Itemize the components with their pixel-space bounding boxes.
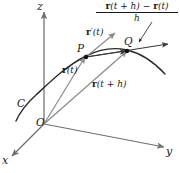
diagram-canvas: [0, 0, 180, 173]
vector-derivative-diagram: z y x O P Q C r(t) r(t + h) r′(t) r(t + …: [0, 0, 180, 173]
point-p-dot: [84, 55, 88, 59]
point-p-label: P: [77, 43, 84, 54]
x-axis: [12, 124, 44, 156]
curve-label-c: C: [17, 98, 25, 109]
formula-denominator: h: [96, 13, 178, 23]
origin-label: O: [36, 117, 45, 128]
r-t-plus-h-argument: (t + h): [97, 79, 127, 89]
vector-r-prime-t-label: r′(t): [86, 28, 103, 37]
difference-quotient-formula: r(t + h) − r(t) h: [96, 2, 178, 24]
formula-minus: −: [140, 1, 153, 11]
r-t-argument: (t): [67, 65, 78, 75]
point-q-label: Q: [124, 36, 133, 47]
point-q-dot: [125, 49, 129, 53]
formula-numerator: r(t + h) − r(t): [96, 2, 178, 13]
formula-r2-arg: (t): [158, 1, 169, 11]
vector-r-t-plus-h-label: r(t + h): [92, 80, 126, 89]
vector-r-t-label: r(t): [62, 66, 77, 75]
formula-r1-arg: (t + h): [110, 1, 140, 11]
r-prime-argument: ′(t): [91, 27, 104, 37]
curve-c: [16, 49, 165, 121]
z-axis-label: z: [37, 1, 43, 12]
h-leader-line: [139, 22, 152, 42]
y-axis: [44, 124, 164, 147]
y-axis-label: y: [166, 146, 172, 157]
x-axis-label: x: [2, 155, 8, 166]
